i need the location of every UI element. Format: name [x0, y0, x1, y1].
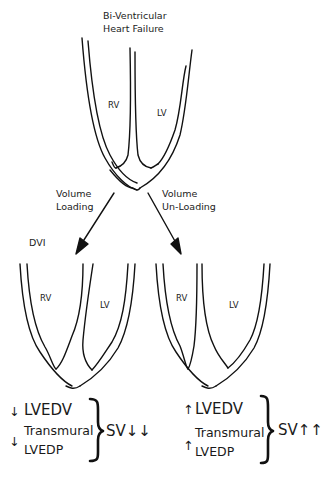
volume-unloading-line2: Un-Loading: [162, 200, 216, 213]
unloading-transmural-arrow: ↑: [183, 438, 193, 454]
dvi-lvedv-label: LVEDV: [24, 401, 72, 419]
volume-loading-line2: Loading: [56, 200, 93, 213]
unloading-rv-label: RV: [176, 293, 187, 303]
top-heart-outline: [82, 38, 192, 190]
title-line2: Heart Failure: [103, 22, 167, 35]
dvi-sv-result: SV↓↓: [106, 422, 151, 440]
dvi-lv-label: LV: [100, 300, 110, 310]
diagram-title: Bi-Ventricular Heart Failure: [103, 9, 167, 35]
dvi-label: DVI: [29, 236, 45, 249]
unloading-heart-outline: [156, 264, 270, 388]
volume-unloading-label: Volume Un-Loading: [162, 187, 216, 213]
unloading-lvedv-label: LVEDV: [195, 400, 243, 418]
volume-unloading-line1: Volume: [162, 187, 216, 200]
top-rv-label: RV: [108, 100, 119, 110]
dvi-transmural-arrow: ↓: [9, 434, 19, 450]
unloading-lv-label: LV: [229, 300, 239, 310]
unloading-lvedp-label: LVEDP: [195, 444, 234, 460]
dvi-lvedv-arrow: ↓: [9, 404, 19, 420]
dvi-transmural-label: Transmural: [24, 423, 93, 439]
dvi-rv-label: RV: [40, 293, 51, 303]
unloading-transmural-label: Transmural: [195, 425, 264, 441]
title-line1: Bi-Ventricular: [103, 9, 167, 22]
volume-loading-label: Volume Loading: [56, 187, 93, 213]
unloading-lvedv-arrow: ↑: [183, 402, 193, 418]
top-lv-label: LV: [157, 108, 167, 118]
volume-loading-line1: Volume: [56, 187, 93, 200]
unloading-sv-result: SV↑↑: [278, 421, 323, 439]
dvi-heart-outline: [20, 264, 135, 388]
dvi-lvedp-label: LVEDP: [24, 442, 63, 458]
